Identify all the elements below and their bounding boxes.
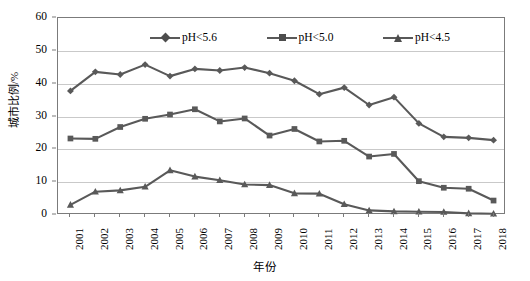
x-tick-label: 2005 [174, 228, 185, 250]
y-tick-mark [52, 49, 56, 50]
y-tick-mark [52, 148, 56, 149]
x-tick-mark [418, 213, 419, 217]
x-tick-label: 2003 [124, 228, 135, 250]
triangle-marker-icon [383, 32, 413, 44]
legend-label: pH<5.6 [182, 32, 217, 44]
x-tick-label: 2018 [497, 228, 508, 250]
data-point [117, 124, 123, 130]
data-point [466, 186, 472, 192]
x-tick-mark [393, 213, 394, 217]
data-point [465, 134, 472, 141]
x-tick-label: 2017 [472, 228, 483, 250]
data-point [167, 112, 173, 118]
data-point [441, 185, 447, 191]
x-tick-label: 2006 [198, 228, 209, 250]
series-layer [58, 18, 506, 215]
y-tick-label: 40 [36, 77, 48, 89]
legend-item-ph-5-0: pH<5.0 [267, 32, 334, 44]
data-point [68, 136, 74, 142]
data-point [92, 136, 98, 142]
data-point [142, 61, 149, 68]
series-line [70, 109, 493, 200]
y-tick-mark [52, 181, 56, 182]
x-axis: 2001200220032004200520062007200820092010… [57, 216, 505, 260]
y-tick-label: 50 [36, 44, 48, 56]
x-tick-label: 2016 [447, 228, 458, 250]
legend-label: pH<5.0 [299, 32, 334, 44]
data-point [242, 116, 248, 122]
x-tick-label: 2004 [149, 228, 160, 250]
x-tick-label: 2011 [323, 228, 334, 250]
x-tick-label: 2007 [223, 228, 234, 250]
y-tick-label: 30 [36, 110, 48, 122]
x-tick-mark [493, 213, 494, 217]
data-point [142, 116, 148, 122]
y-tick-label: 20 [36, 143, 48, 155]
data-point [292, 126, 298, 132]
acid-rain-city-proportion-chart: 0102030405060 城市比例/% pH<5.6 pH<5.0 pH<4.… [0, 0, 530, 281]
diamond-marker-icon [150, 32, 180, 44]
data-point [216, 67, 223, 74]
x-tick-label: 2012 [348, 228, 359, 250]
x-tick-label: 2010 [298, 228, 309, 250]
data-point [267, 133, 273, 139]
data-point [217, 119, 223, 125]
data-point [117, 71, 124, 78]
data-point [366, 154, 372, 160]
x-tick-mark [468, 213, 469, 217]
series-line [70, 65, 493, 141]
x-tick-mark [194, 213, 195, 217]
y-tick-label: 10 [36, 175, 48, 187]
chart-legend: pH<5.6 pH<5.0 pH<4.5 [150, 30, 450, 46]
legend-item-ph-4-5: pH<4.5 [383, 32, 450, 44]
x-tick-label: 2013 [373, 228, 384, 250]
y-tick-mark [52, 82, 56, 83]
x-tick-mark [343, 213, 344, 217]
x-axis-title: 年份 [0, 258, 530, 274]
x-tick-mark [244, 213, 245, 217]
data-point [191, 65, 198, 72]
x-tick-label: 2015 [422, 228, 433, 250]
square-marker-icon [267, 32, 297, 44]
data-point [416, 178, 422, 184]
y-tick-label: 0 [41, 208, 47, 220]
legend-label: pH<4.5 [415, 32, 450, 44]
data-point [266, 70, 273, 77]
y-tick-mark [52, 214, 56, 215]
x-tick-label: 2009 [273, 228, 284, 250]
x-tick-mark [169, 213, 170, 217]
x-tick-label: 2014 [398, 228, 409, 250]
y-tick-mark [52, 17, 56, 18]
data-point [166, 167, 173, 174]
data-point [341, 138, 347, 144]
series-line [70, 170, 493, 213]
x-tick-mark [119, 213, 120, 217]
x-tick-mark [219, 213, 220, 217]
x-tick-mark [69, 213, 70, 217]
data-point [491, 198, 497, 204]
x-tick-label: 2001 [74, 228, 85, 250]
x-tick-mark [368, 213, 369, 217]
x-tick-mark [94, 213, 95, 217]
x-tick-mark [443, 213, 444, 217]
x-tick-label: 2002 [99, 228, 110, 250]
x-tick-mark [293, 213, 294, 217]
legend-item-ph-5-6: pH<5.6 [150, 32, 217, 44]
x-tick-mark [144, 213, 145, 217]
series-ph-4-5 [67, 167, 497, 217]
data-point [391, 151, 397, 157]
data-point [167, 73, 174, 80]
data-point [490, 137, 497, 144]
data-point [316, 139, 322, 145]
x-tick-mark [269, 213, 270, 217]
plot-area [57, 17, 505, 214]
x-tick-label: 2008 [248, 228, 259, 250]
y-axis-title: 城市比例/% [5, 58, 21, 142]
x-tick-mark [318, 213, 319, 217]
y-tick-label: 60 [36, 11, 48, 23]
data-point [241, 64, 248, 71]
data-point [192, 106, 198, 112]
y-tick-mark [52, 115, 56, 116]
